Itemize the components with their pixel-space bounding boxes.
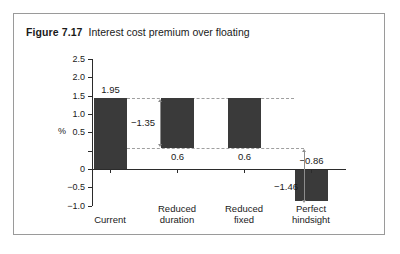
cat-line-1: Current <box>94 214 126 225</box>
bar-value-reduced-duration: 0.6 <box>157 152 198 162</box>
y-tick-mark <box>88 169 92 170</box>
y-tick-label: 1.5 <box>72 92 85 101</box>
x-tick-mark <box>311 169 312 173</box>
x-tick-mark <box>110 169 111 173</box>
y-tick-label: 0 <box>80 165 85 174</box>
y-tick-mark <box>88 77 92 78</box>
bar-reduced-fixed[interactable] <box>228 98 261 148</box>
y-tick-mark <box>88 59 92 60</box>
y-tick-label: −1.0 <box>67 202 85 211</box>
cat-line-1: Reduced <box>225 203 263 214</box>
bar-value-perfect-hindsight: −0.86 <box>291 156 332 166</box>
cat-line-2: fixed <box>209 214 279 225</box>
y-tick-mark <box>88 96 92 97</box>
cat-line-1: Perfect <box>296 203 326 214</box>
x-category-label-current: Current <box>75 214 145 225</box>
x-category-label-reduced-duration: Reduced duration <box>142 203 212 225</box>
y-tick-mark <box>88 206 92 207</box>
bar-value-current: 1.95 <box>90 85 131 95</box>
y-axis-line <box>92 59 93 206</box>
connector-line-upper <box>127 98 294 99</box>
chart-plot-area: % 2.5 2.0 1.5 1.0 0.5 0 −0.5 −1.0 1.95 0… <box>14 14 386 236</box>
x-category-label-reduced-fixed: Reduced fixed <box>209 203 279 225</box>
cat-line-2: hindsight <box>276 214 346 225</box>
y-tick-label: 2.0 <box>72 73 85 82</box>
x-category-label-perfect-hindsight: Perfect hindsight <box>276 203 346 225</box>
bar-perfect-hindsight[interactable] <box>295 170 328 201</box>
difference-label-lower: −1.46 <box>250 182 298 192</box>
difference-arrow-upper <box>160 102 161 144</box>
y-tick-mark <box>88 114 92 115</box>
y-tick-mark <box>88 151 92 152</box>
bar-value-reduced-fixed: 0.6 <box>224 152 265 162</box>
y-tick-mark <box>88 187 92 188</box>
y-tick-label: −0.5 <box>67 183 85 192</box>
y-tick-label: 1.0 <box>72 110 85 119</box>
bar-reduced-duration[interactable] <box>161 98 194 148</box>
connector-line-lower <box>127 148 304 149</box>
cat-line-1: Reduced <box>158 203 196 214</box>
y-tick-label: 2.5 <box>72 55 85 64</box>
difference-arrow-lower <box>304 152 305 200</box>
bar-current[interactable] <box>94 98 127 169</box>
x-tick-mark <box>177 169 178 173</box>
figure-frame: Figure 7.17Interest cost premium over fl… <box>13 13 385 235</box>
y-tick-label: 0.5 <box>72 128 85 137</box>
cat-line-2: duration <box>142 214 212 225</box>
y-tick-mark <box>88 132 92 133</box>
difference-label-upper: −1.35 <box>110 118 155 128</box>
y-axis-label: % <box>58 127 66 136</box>
x-tick-mark <box>244 169 245 173</box>
